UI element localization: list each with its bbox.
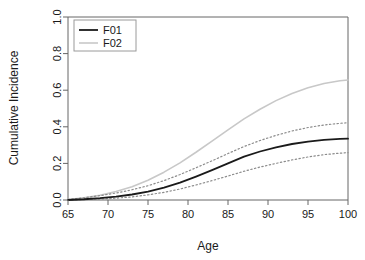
chart-legend[interactable]: F01F02 (74, 20, 136, 51)
curves-layer (68, 80, 348, 200)
x-tick-label-65: 65 (62, 208, 74, 220)
y-tick-label-0.2: 0.2 (51, 156, 63, 171)
series-curve-f01-upper-ci (68, 123, 348, 200)
y-tick-label-0.8: 0.8 (51, 46, 63, 61)
x-tick-label-85: 85 (222, 208, 234, 220)
y-tick-label-0.0: 0.0 (51, 192, 63, 207)
y-axis: 0.00.20.40.60.81.0 (51, 9, 68, 207)
y-tick-label-0.6: 0.6 (51, 83, 63, 98)
x-tick-label-100: 100 (339, 208, 357, 220)
x-tick-label-95: 95 (302, 208, 314, 220)
series-curve-f01 (68, 139, 348, 200)
y-tick-label-0.4: 0.4 (51, 119, 63, 134)
cumulative-incidence-plot: 65707580859095100 0.00.20.40.60.81.0 F01… (0, 0, 365, 260)
legend-label-F02[interactable]: F02 (103, 37, 122, 49)
x-tick-label-90: 90 (262, 208, 274, 220)
x-tick-label-80: 80 (182, 208, 194, 220)
x-axis-title: Age (197, 239, 219, 253)
x-tick-label-75: 75 (142, 208, 154, 220)
chart-figure: 65707580859095100 0.00.20.40.60.81.0 F01… (0, 0, 365, 260)
y-tick-label-1.0: 1.0 (51, 9, 63, 24)
y-axis-title: Cumulative Incidence (7, 50, 21, 165)
x-axis: 65707580859095100 (62, 200, 357, 220)
legend-label-F01[interactable]: F01 (103, 24, 122, 36)
x-tick-label-70: 70 (102, 208, 114, 220)
